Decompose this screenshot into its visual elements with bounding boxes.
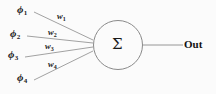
weight-subscript-1: 1 [63, 16, 66, 22]
input-label-2: ϕ2 [10, 28, 20, 41]
edge-input-3 [25, 47, 93, 57]
neuron-diagram: Σ ϕ1 ϕ2 ϕ3 ϕ4 w1 w2 w3 w4 Out [0, 0, 216, 94]
weight-subscript-2: 2 [54, 32, 57, 38]
input-subscript-2: 2 [17, 33, 21, 41]
input-subscript-3: 3 [15, 54, 19, 62]
input-label-3: ϕ3 [8, 49, 18, 62]
weight-symbol-2: w [48, 27, 54, 37]
weight-label-2: w2 [48, 28, 57, 38]
weight-symbol-1: w [57, 11, 63, 21]
weight-label-3: w3 [45, 42, 54, 52]
output-label: Out [184, 39, 202, 50]
input-subscript-1: 1 [24, 9, 28, 17]
input-symbol-3: ϕ [8, 48, 14, 60]
weight-symbol-3: w [45, 41, 51, 51]
input-label-1: ϕ1 [17, 4, 27, 17]
input-symbol-4: ϕ [17, 71, 23, 83]
edge-input-2 [27, 36, 93, 43]
weight-subscript-3: 3 [51, 46, 54, 52]
input-symbol-2: ϕ [10, 27, 16, 39]
sigma-icon: Σ [112, 37, 123, 52]
input-symbol-1: ϕ [17, 3, 23, 15]
weight-label-1: w1 [57, 12, 66, 22]
weight-subscript-4: 4 [54, 64, 57, 70]
weight-symbol-4: w [48, 59, 54, 69]
input-label-4: ϕ4 [17, 72, 27, 85]
edge-input-4 [34, 51, 93, 80]
weight-label-4: w4 [48, 60, 57, 70]
input-subscript-4: 4 [24, 77, 28, 85]
